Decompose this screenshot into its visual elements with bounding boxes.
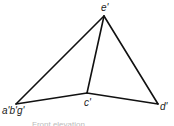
label-c: c' — [84, 97, 92, 108]
edge-e-d — [104, 16, 158, 104]
projection-diagram: e' a'b'g' c' d' Front elevation — [0, 0, 174, 126]
label-e: e' — [101, 2, 110, 13]
edge-abg-c — [16, 93, 87, 104]
label-d: d' — [160, 101, 169, 112]
caption: Front elevation — [32, 120, 85, 126]
edge-c-d — [87, 93, 158, 104]
edge-abg-e — [16, 16, 104, 104]
edge-e-c — [87, 16, 104, 93]
label-abg: a'b'g' — [2, 105, 26, 116]
